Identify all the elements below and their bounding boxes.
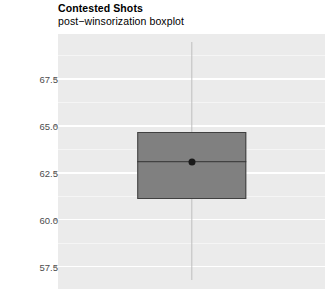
y-axis-tick-label: 67.5 (14, 74, 58, 85)
y-axis-tick-label: 65.0 (14, 120, 58, 131)
chart-subtitle: post−winsorization boxplot (58, 15, 328, 28)
y-axis-tick-mark (54, 79, 57, 80)
page-title: Contested Shots (58, 2, 328, 15)
y-axis-tick-mark (54, 266, 57, 267)
y-axis-tick-mark (54, 219, 57, 220)
y-axis-tick-mark (54, 172, 57, 173)
boxplot-mean-point (188, 158, 195, 165)
y-axis-tick-mark (54, 125, 57, 126)
y-axis-ticks (54, 34, 58, 289)
chart-title-block: Contested Shots post−winsorization boxpl… (58, 2, 328, 28)
boxplot-chart: Contested Shots post−winsorization boxpl… (0, 0, 333, 299)
plot-panel (58, 34, 325, 289)
y-axis-tick-label: 62.5 (14, 167, 58, 178)
y-axis: 67.565.062.560.057.5 (0, 34, 58, 289)
boxplot-box (137, 132, 246, 200)
y-axis-tick-label: 57.5 (14, 261, 58, 272)
y-axis-tick-label: 60.0 (14, 214, 58, 225)
